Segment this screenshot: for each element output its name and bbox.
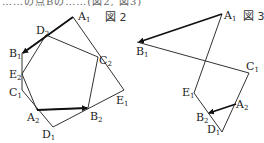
arrow-a2-b2: [37, 108, 87, 110]
label-b1: B1: [136, 45, 149, 59]
diagram-canvas: A1 D2 B1 C2 E2 C1 E1 A2 B2 D1 図 2 A1 図 3…: [0, 0, 264, 143]
figure-2: A1 D2 B1 C2 E2 C1 E1 A2 B2 D1 図 2: [9, 10, 129, 142]
label-c1: C1: [9, 86, 22, 100]
label-a1: A1: [223, 9, 236, 23]
arrow-a1-b1: [139, 14, 222, 42]
label-b2: B2: [90, 110, 103, 124]
label-e1: E1: [116, 94, 129, 108]
label-d2: D2: [36, 24, 49, 38]
label-c2: C2: [99, 54, 112, 68]
figure-2-caption: 図 2: [105, 11, 127, 24]
label-e2: E2: [9, 68, 22, 82]
figure-3: A1 図 3 B1 C1 E1 A2 B2 D1: [136, 9, 264, 137]
figure-3-caption: 図 3: [243, 10, 264, 23]
edge-a1-e1: [194, 14, 222, 93]
label-a2: A2: [235, 98, 248, 112]
label-b1: B1: [9, 47, 22, 61]
edge-b1-c1: [137, 42, 249, 73]
label-a2: A2: [26, 111, 39, 125]
label-d1: D1: [207, 123, 220, 137]
label-d1: D1: [42, 128, 55, 142]
label-c1: C1: [246, 60, 259, 74]
label-e1: E1: [182, 86, 195, 100]
label-a1: A1: [77, 10, 90, 24]
arrow-a2-b2: [209, 104, 236, 113]
